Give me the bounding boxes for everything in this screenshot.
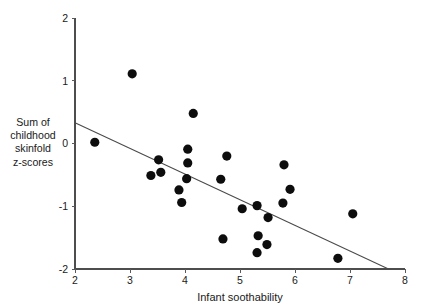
data-point [146,171,155,180]
data-point [285,185,294,194]
y-tick-label: 1 [62,75,68,87]
data-point [177,198,186,207]
data-point [252,201,261,210]
data-point [90,138,99,147]
data-point [252,248,261,257]
data-point [238,204,247,213]
data-point [216,175,225,184]
x-tick-label: 8 [402,274,408,286]
data-point [182,174,191,183]
x-axis-title: Infant soothability [197,291,283,303]
data-point [183,158,192,167]
data-point [189,109,198,118]
y-tick-label: -2 [59,263,68,275]
data-point [156,168,165,177]
y-tick-label: -1 [59,200,68,212]
data-point [278,199,287,208]
x-tick-label: 5 [237,274,243,286]
data-point [333,254,342,263]
data-point [218,234,227,243]
data-point [348,209,357,218]
data-point [254,231,263,240]
data-point [183,145,192,154]
x-tick-label: 3 [127,274,133,286]
x-tick-label: 4 [182,274,188,286]
trend-line [75,123,389,269]
data-point [262,240,271,249]
y-axis-title: Sum of childhood skinfold z-scores [2,116,64,169]
data-point [174,185,183,194]
x-tick-label: 6 [292,274,298,286]
data-point [222,151,231,160]
y-tick-label: 2 [62,12,68,24]
data-point [279,160,288,169]
x-tick-label: 7 [347,274,353,286]
data-point [154,155,163,164]
scatter-plot-figure: -2-10122345678Infant soothability Sum of… [0,0,426,307]
x-tick-label: 2 [72,274,78,286]
data-point [128,69,137,78]
data-point [263,213,272,222]
